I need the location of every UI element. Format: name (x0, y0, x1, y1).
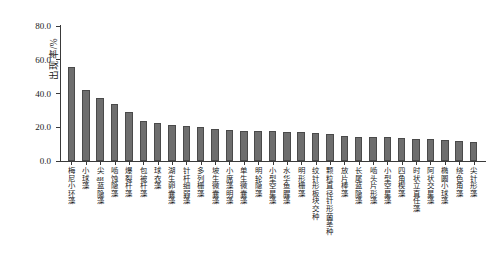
x-axis-tick-mark (430, 162, 431, 165)
bar (341, 136, 348, 161)
bar (355, 137, 362, 161)
x-axis-tick-mark (316, 162, 317, 165)
bar (398, 138, 405, 161)
x-axis-tick-mark (201, 162, 202, 165)
x-axis-tick-mark (330, 162, 331, 165)
x-axis-tick-mark (416, 162, 417, 165)
bar (269, 131, 276, 161)
y-axis-tick-label: 40.0 (35, 88, 51, 100)
x-axis-tick-label: 梅尼小环藻 (67, 167, 75, 205)
x-axis-tick-mark (373, 162, 374, 165)
x-axis-tick-mark (258, 162, 259, 165)
y-axis-tick-label: 80.0 (35, 20, 51, 32)
bar (125, 112, 132, 161)
x-axis-tick-label: 长尾蓝隐藻 (355, 167, 363, 205)
x-axis-tick-mark (100, 162, 101, 165)
bar (470, 142, 477, 161)
x-axis-tick-label: 包被杆藻 (139, 167, 147, 197)
bar (154, 123, 161, 161)
x-axis-tick-mark (186, 162, 187, 165)
x-axis-tick-label: 椭圆小球藻 (441, 167, 449, 205)
x-axis-tick-mark (287, 162, 288, 165)
x-axis-tick-label: 针杆细弱藻 (182, 167, 190, 205)
x-axis-tick-label: 尖针形藻 (470, 167, 478, 197)
bar (183, 126, 190, 161)
x-axis-tick-label: 阿状交星藻 (426, 167, 434, 205)
x-axis-tick-label: 时状立直任藻 (412, 167, 420, 213)
y-axis-tick-label: 20.0 (35, 121, 51, 133)
x-axis-tick-label: 球衣藻 (154, 167, 162, 190)
x-axis-tick-label: 多列栅藻 (197, 167, 205, 197)
x-axis-tick-mark (402, 162, 403, 165)
x-axis-tick-label: 小球藻 (82, 167, 90, 190)
x-axis-tick-mark (273, 162, 274, 165)
x-axis-tick-mark (229, 162, 230, 165)
bar (427, 139, 434, 161)
bar (82, 90, 89, 161)
y-axis-tick-label: 60.0 (35, 54, 51, 66)
bar (140, 121, 147, 162)
x-axis-tick-label: 坡生微囊藻 (211, 167, 219, 205)
bar (441, 140, 448, 161)
x-axis-tick-mark (474, 162, 475, 165)
x-axis-tick-mark (301, 162, 302, 165)
x-axis-tick-label: 小型空星藻 (383, 167, 391, 205)
x-axis-tick-label: 放片棒藻 (340, 167, 348, 197)
bar (254, 131, 261, 161)
x-axis-tick-mark (459, 162, 460, 165)
y-axis-tick: 80.0 (0, 20, 60, 32)
x-axis-tick-label: 四角楔藻 (398, 167, 406, 197)
x-axis-tick-label: 湖生卵囊藻 (168, 167, 176, 205)
x-axis-tick-mark (129, 162, 130, 165)
x-axis-tick-mark (86, 162, 87, 165)
x-axis-tick-mark (158, 162, 159, 165)
x-axis-tick-label: 明轮隐藻 (254, 167, 262, 197)
bar (240, 131, 247, 161)
x-axis-tick-label: 单生微囊藻 (240, 167, 248, 205)
x-axis-tick-mark (445, 162, 446, 165)
x-axis-tick-mark (244, 162, 245, 165)
bar (369, 137, 376, 161)
x-axis-tick-label: 啮蚀隐藻 (111, 167, 119, 197)
x-axis-tick-label: 明形栅藻 (297, 167, 305, 197)
bar (412, 139, 419, 161)
x-axis-tick-label: 爆裂杆藻 (125, 167, 133, 197)
y-axis-tick: 0.0 (0, 155, 60, 167)
x-axis-tick-mark (359, 162, 360, 165)
x-axis-tick-label: 小型空星藻 (269, 167, 277, 205)
bar (211, 129, 218, 161)
bar (168, 125, 175, 161)
x-axis-tick-mark (71, 162, 72, 165)
x-axis-tick-mark (344, 162, 345, 165)
y-axis-tick: 40.0 (0, 88, 60, 100)
bar (326, 134, 333, 161)
bar (455, 141, 462, 161)
bar (312, 133, 319, 161)
bar (197, 127, 204, 161)
x-axis-tick-label: 啮头片形藻 (369, 167, 377, 205)
plot-area (60, 26, 485, 161)
bar-chart-figure: 出现率/% 0.020.040.060.080.0 梅尼小环藻小球藻尖аи蓝隐藻… (0, 0, 501, 280)
x-axis-tick-mark (115, 162, 116, 165)
y-axis-tick: 20.0 (0, 121, 60, 133)
y-axis-tick: 60.0 (0, 54, 60, 66)
x-axis-tick-label: 小席藻明藻 (225, 167, 233, 205)
bar (68, 67, 75, 162)
x-axis-tick-mark (172, 162, 173, 165)
bar (226, 130, 233, 161)
x-axis-tick-label: 尖аи蓝隐藻 (96, 167, 104, 205)
x-axis-tick-label: 颗粒直径针形菌茎种 (326, 167, 334, 235)
x-axis-tick-mark (215, 162, 216, 165)
bar (384, 137, 391, 161)
bar (111, 104, 118, 161)
x-axis-tick-label: 绕色角藻 (455, 167, 463, 197)
x-axis-tick-label: 水华鱼腥藻 (283, 167, 291, 205)
x-axis-tick-mark (387, 162, 388, 165)
bar (283, 132, 290, 161)
x-axis-tick-mark (143, 162, 144, 165)
bar (96, 98, 103, 161)
y-axis-tick-label: 0.0 (40, 155, 51, 167)
bar (297, 132, 304, 161)
x-axis-tick-label: 纹针形板块交种 (312, 167, 320, 220)
